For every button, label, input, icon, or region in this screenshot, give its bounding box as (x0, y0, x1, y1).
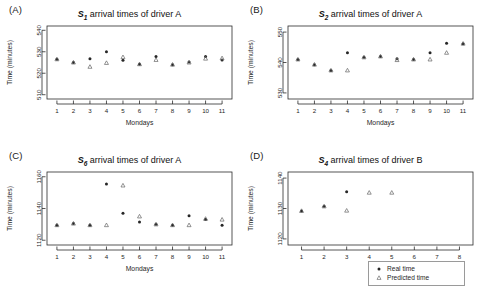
svg-text:520: 520 (35, 68, 42, 79)
svg-text:7: 7 (154, 253, 158, 260)
panel-a: (A) S1 arrival times of driver A 5105205… (0, 0, 241, 146)
svg-text:3: 3 (329, 107, 333, 114)
panel-b-plot: 5305405501234567891011MondaysTime (minut… (241, 0, 482, 146)
svg-text:1: 1 (55, 253, 59, 260)
svg-text:6: 6 (138, 107, 142, 114)
panel-b: (B) S2 arrival times of driver A 5305405… (241, 0, 482, 146)
svg-text:530: 530 (35, 46, 42, 57)
svg-text:510: 510 (35, 89, 42, 100)
legend-entry-predicted-time: Predicted time (375, 273, 429, 283)
open-triangle-icon (375, 274, 383, 282)
svg-text:Time (minutes): Time (minutes) (6, 186, 14, 231)
figure-container: (A) S1 arrival times of driver A 5105205… (0, 0, 483, 293)
svg-text:4: 4 (105, 107, 109, 114)
svg-text:6: 6 (413, 253, 417, 260)
svg-text:11: 11 (219, 253, 226, 260)
svg-text:1160: 1160 (35, 170, 42, 184)
svg-text:1: 1 (296, 107, 300, 114)
svg-text:4: 4 (346, 107, 350, 114)
svg-text:11: 11 (219, 107, 226, 114)
filled-circle-icon (375, 265, 383, 273)
svg-text:1140: 1140 (276, 171, 283, 185)
svg-text:8: 8 (171, 107, 175, 114)
svg-text:1: 1 (300, 253, 304, 260)
svg-text:Time (minutes): Time (minutes) (247, 40, 255, 85)
svg-text:Time (minutes): Time (minutes) (6, 40, 14, 85)
svg-text:4: 4 (367, 253, 371, 260)
svg-text:Mondays: Mondays (126, 265, 154, 273)
svg-text:9: 9 (187, 253, 191, 260)
svg-text:7: 7 (154, 107, 158, 114)
svg-text:10: 10 (202, 107, 209, 114)
svg-text:7: 7 (435, 253, 439, 260)
svg-text:4: 4 (105, 253, 109, 260)
svg-text:7: 7 (395, 107, 399, 114)
svg-text:1: 1 (55, 107, 59, 114)
svg-text:1130: 1130 (276, 201, 283, 215)
svg-text:5: 5 (121, 107, 125, 114)
svg-text:6: 6 (138, 253, 142, 260)
svg-text:550: 550 (276, 26, 283, 37)
svg-text:2: 2 (322, 253, 326, 260)
svg-text:2: 2 (313, 107, 317, 114)
svg-text:8: 8 (412, 107, 416, 114)
legend-label-real-time: Real time (387, 265, 415, 273)
svg-text:2: 2 (72, 253, 76, 260)
svg-text:9: 9 (428, 107, 432, 114)
svg-text:11: 11 (460, 107, 467, 114)
svg-text:2: 2 (72, 107, 76, 114)
svg-text:1140: 1140 (35, 201, 42, 215)
series-legend: Real time Predicted time (368, 261, 465, 286)
svg-text:5: 5 (362, 107, 366, 114)
svg-text:1120: 1120 (276, 232, 283, 246)
panel-c: (C) S6 arrival times of driver A 1120114… (0, 146, 241, 292)
svg-text:10: 10 (443, 107, 450, 114)
svg-text:9: 9 (187, 107, 191, 114)
svg-text:Mondays: Mondays (126, 119, 154, 127)
svg-text:8: 8 (171, 253, 175, 260)
svg-text:8: 8 (458, 253, 462, 260)
svg-text:3: 3 (88, 107, 92, 114)
svg-text:6: 6 (379, 107, 383, 114)
svg-text:Mondays: Mondays (367, 119, 395, 127)
svg-text:5: 5 (390, 253, 394, 260)
svg-text:10: 10 (202, 253, 209, 260)
svg-text:540: 540 (276, 57, 283, 68)
svg-text:Time (minutes): Time (minutes) (247, 186, 255, 231)
panel-a-plot: 5105205305401234567891011MondaysTime (mi… (0, 0, 241, 146)
svg-text:3: 3 (88, 253, 92, 260)
svg-text:1120: 1120 (35, 233, 42, 247)
svg-text:3: 3 (345, 253, 349, 260)
legend-label-predicted-time: Predicted time (387, 274, 429, 282)
panel-c-plot: 1120114011601234567891011MondaysTime (mi… (0, 146, 241, 292)
svg-text:540: 540 (35, 25, 42, 36)
svg-text:5: 5 (121, 253, 125, 260)
svg-text:530: 530 (276, 87, 283, 98)
